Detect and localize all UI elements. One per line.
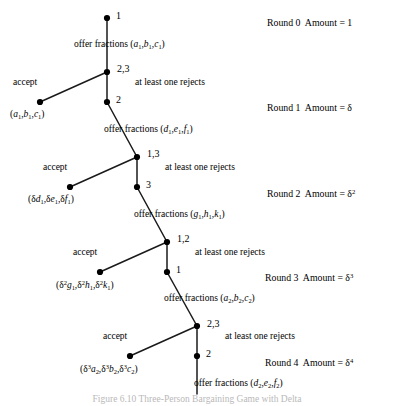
payoff-tuple-label: (δd1,δe1,δf1) xyxy=(28,195,74,206)
round-amount-label: Round 1 Amount = δ xyxy=(267,103,352,113)
offer-fraction-label: offer fractions (d2,e2,f2) xyxy=(194,379,283,390)
player-id-label: 3 xyxy=(146,180,151,191)
offer-fraction-label: offer fractions (a2,b2,c2) xyxy=(164,294,255,305)
decision-node xyxy=(194,353,200,359)
decision-node xyxy=(104,99,110,105)
tree-edge-accept xyxy=(130,326,197,356)
decision-node xyxy=(104,15,110,21)
player-id-label: 2,3 xyxy=(207,319,220,330)
game-tree-figure: 12,321,331,212,32 acceptacceptacceptacce… xyxy=(0,0,394,406)
tree-edge-accept xyxy=(70,157,137,187)
round-amount-label: Round 4 Amount = δ4 xyxy=(265,357,353,368)
payoff-tuple-label: (δ2g1,δ2h1,δ2k1) xyxy=(56,280,114,291)
tree-edge-accept xyxy=(100,242,167,272)
accept-label: accept xyxy=(73,248,97,258)
figure-caption: Figure 6.10 Three-Person Bargaining Game… xyxy=(0,394,394,406)
reject-label: at least one rejects xyxy=(135,78,205,88)
player-id-label: 2,3 xyxy=(117,64,130,75)
payoff-tuple-label: (δ3a2,δ3b2,δ3c2) xyxy=(80,364,138,375)
terminal-node xyxy=(67,184,73,190)
payoff-tuple-label: (a1,b1,c1) xyxy=(10,110,45,121)
decision-node xyxy=(134,154,140,160)
accept-label: accept xyxy=(13,78,37,88)
decision-node xyxy=(134,184,140,190)
player-id-label: 1 xyxy=(116,11,121,22)
terminal-node xyxy=(97,269,103,275)
terminal-node xyxy=(127,353,133,359)
reject-label: at least one rejects xyxy=(195,248,265,258)
round-amount-label: Round 3 Amount = δ3 xyxy=(265,272,353,283)
offer-fraction-label: offer fractions (g1,h1,k1) xyxy=(134,210,225,221)
tree-edge-accept xyxy=(40,72,107,102)
player-id-label: 2 xyxy=(206,349,211,360)
terminal-node xyxy=(37,99,43,105)
player-id-label: 2 xyxy=(116,95,121,106)
reject-label: at least one rejects xyxy=(225,332,295,342)
reject-label: at least one rejects xyxy=(165,163,235,173)
offer-fraction-label: offer fractions (d1,e1,f1) xyxy=(104,125,193,136)
player-id-label: 1 xyxy=(176,265,181,276)
offer-fraction-label: offer fractions (a1,b1,c1) xyxy=(74,40,165,51)
round-amount-label: Round 2 Amount = δ2 xyxy=(267,188,355,199)
accept-label: accept xyxy=(103,332,127,342)
player-id-label: 1,3 xyxy=(147,149,160,160)
player-id-label: 1,2 xyxy=(177,234,190,245)
decision-node xyxy=(164,269,170,275)
decision-node xyxy=(194,323,200,329)
accept-label: accept xyxy=(43,163,67,173)
round-amount-label: Round 0 Amount = 1 xyxy=(267,18,352,28)
decision-node xyxy=(104,69,110,75)
decision-node xyxy=(164,239,170,245)
